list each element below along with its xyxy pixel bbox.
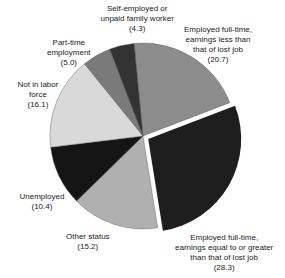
slice-label: Employed full-time, earnings less than t… (184, 25, 252, 65)
pie-chart: Self-employed or unpaid family worker (4… (0, 0, 285, 278)
slice-label: Not in labor force (16.1) (18, 80, 59, 110)
slice-label: Part-time employment (5.0) (47, 38, 91, 68)
slice-label: Employed full-time, earnings equal to or… (175, 233, 273, 273)
slice-label: Unemployed (10.4) (20, 192, 65, 212)
slice-label: Other status (15.2) (66, 232, 110, 252)
slice-label: Self-employed or unpaid family worker (4… (101, 4, 174, 34)
